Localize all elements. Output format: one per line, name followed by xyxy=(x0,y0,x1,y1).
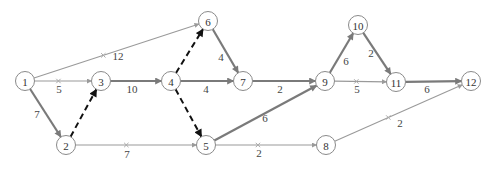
node-10: 10 xyxy=(349,16,368,35)
node-7: 7 xyxy=(234,72,253,91)
edge-label-10-11: 2 xyxy=(368,47,374,59)
node-label: 2 xyxy=(63,140,69,152)
edge-label-1-3: 5 xyxy=(56,83,62,95)
edge-label-7-9: 2 xyxy=(277,83,283,95)
edge-label-6-7: 4 xyxy=(218,51,224,63)
nodes-layer: 123456789101112 xyxy=(16,12,481,155)
edge-label-1-2: 7 xyxy=(34,108,40,120)
edge-6-7 xyxy=(213,29,238,73)
edge-4-5 xyxy=(176,89,202,136)
edge-11-12 xyxy=(405,81,461,82)
node-label: 4 xyxy=(168,76,174,88)
node-label: 10 xyxy=(353,20,365,32)
node-5: 5 xyxy=(197,136,216,155)
edge-label-5-9: 6 xyxy=(262,112,268,124)
edge-label-4-7: 4 xyxy=(203,83,209,95)
node-label: 1 xyxy=(22,76,28,88)
node-label: 12 xyxy=(466,76,477,88)
node-4: 4 xyxy=(162,72,181,91)
network-diagram: 12577104426265262 123456789101112 xyxy=(0,0,492,171)
node-12: 12 xyxy=(462,72,481,91)
node-label: 9 xyxy=(322,76,328,88)
edge-label-1-6: 12 xyxy=(113,50,124,62)
node-6: 6 xyxy=(199,12,218,31)
edge-label-3-4: 10 xyxy=(127,83,139,95)
edge-label-2-5: 7 xyxy=(124,148,130,160)
edge-label-11-12: 6 xyxy=(424,83,430,95)
node-label: 11 xyxy=(391,77,402,89)
node-label: 5 xyxy=(203,140,209,152)
node-11: 11 xyxy=(387,73,406,92)
edge-label-9-10: 6 xyxy=(343,55,349,67)
node-label: 8 xyxy=(323,140,329,152)
cut-mark-icon xyxy=(386,115,390,119)
edge-9-11 xyxy=(334,81,386,82)
edge-9-10 xyxy=(330,33,353,73)
edge-label-8-12: 2 xyxy=(397,117,403,129)
edge-2-3 xyxy=(71,89,97,136)
node-label: 6 xyxy=(205,16,211,28)
node-9: 9 xyxy=(316,72,335,91)
edge-4-6 xyxy=(176,29,203,73)
node-8: 8 xyxy=(317,136,336,155)
node-1: 1 xyxy=(16,72,35,91)
node-2: 2 xyxy=(57,136,76,155)
node-label: 7 xyxy=(240,76,246,88)
node-label: 3 xyxy=(98,76,104,88)
edge-label-9-11: 5 xyxy=(354,83,360,95)
node-3: 3 xyxy=(92,72,111,91)
edge-label-5-8: 2 xyxy=(256,147,262,159)
